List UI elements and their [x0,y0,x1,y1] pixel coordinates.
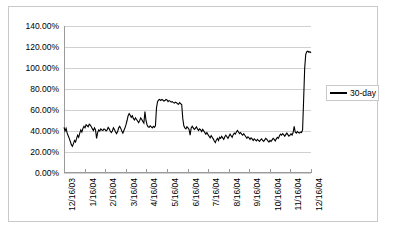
x-axis-tick-label: 9/16/04 [253,178,262,206]
plot-area: 140.00%120.00%100.00%80.00%60.00%40.00%2… [64,26,311,173]
y-axis-tick-label: 80.00% [30,85,59,94]
y-axis-tick-label: 100.00% [25,64,59,73]
x-axis-tick-label: 12/16/03 [68,178,77,211]
x-axis-tick-label: 10/16/04 [274,178,283,211]
x-axis-tick-label: 12/16/04 [315,178,324,211]
y-axis-tick-label: 40.00% [30,127,59,136]
legend-swatch-30-day [330,92,347,94]
x-axis-tick-label: 11/16/04 [294,178,303,210]
x-axis-tick-label: 4/16/04 [150,178,159,206]
y-axis-tick-label: 140.00% [25,22,59,31]
y-axis-tick-label: 0.00% [35,169,59,178]
y-axis-tick-label: 20.00% [30,148,59,157]
x-axis-tick-label: 2/16/04 [109,178,118,206]
x-axis-tick-label: 6/16/04 [192,178,201,206]
gridline [64,173,311,174]
x-axis-tick-label: 7/16/04 [212,178,221,206]
x-axis-tick-label: 5/16/04 [171,178,180,206]
x-axis-tick-label: 8/16/04 [233,178,242,206]
x-axis-tick-label: 1/16/04 [89,178,98,206]
series-30-day [64,26,311,173]
x-axis-tick-label: 3/16/04 [130,178,139,206]
y-axis-tick-label: 120.00% [25,43,59,52]
y-axis-tick-label: 60.00% [30,106,59,115]
legend: 30-day [326,85,379,101]
legend-label-30-day: 30-day [350,89,376,98]
chart-frame: 140.00%120.00%100.00%80.00%60.00%40.00%2… [8,6,378,222]
x-axis-tick [311,169,312,173]
